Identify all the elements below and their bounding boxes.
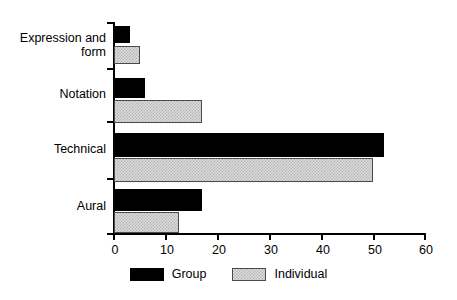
bar-group-aural — [114, 189, 425, 233]
value-tick-label-10: 10 — [147, 243, 187, 257]
legend-swatch-group-icon — [130, 268, 164, 281]
value-tick — [217, 233, 219, 240]
bar-chart: Expression and form Notation Technical A… — [0, 0, 457, 300]
value-tick-label-60: 60 — [406, 243, 446, 257]
bar-notation-individual — [114, 100, 202, 123]
category-tick — [107, 22, 114, 24]
value-tick — [113, 233, 115, 240]
value-tick-label-50: 50 — [355, 243, 395, 257]
legend-label-group: Group — [172, 267, 207, 281]
category-label-technical: Technical — [54, 142, 106, 156]
category-label-notation: Notation — [59, 87, 106, 101]
bar-row-group — [114, 78, 425, 98]
value-tick — [424, 233, 426, 240]
bar-row-group — [114, 133, 425, 157]
legend-swatch-individual-icon — [232, 268, 266, 281]
bar-expression-and-form-group — [114, 26, 130, 43]
category-label-aural: Aural — [77, 199, 106, 213]
value-tick-label-40: 40 — [303, 243, 343, 257]
bar-group-technical — [114, 133, 425, 182]
bar-row-group — [114, 189, 425, 211]
value-tick-label-20: 20 — [199, 243, 239, 257]
plot-area — [114, 22, 425, 233]
bar-expression-and-form-individual — [114, 46, 140, 64]
bar-technical-individual — [114, 158, 373, 182]
value-tick — [165, 233, 167, 240]
value-tick-label-30: 30 — [251, 243, 291, 257]
value-tick — [321, 233, 323, 240]
bar-row-individual — [114, 212, 425, 233]
category-tick — [107, 178, 114, 180]
bar-group-notation — [114, 78, 425, 123]
bar-row-individual — [114, 100, 425, 123]
category-label-expression-and-form: Expression and form — [20, 31, 106, 59]
value-tick-label-0: 0 — [95, 243, 135, 257]
bar-row-individual — [114, 158, 425, 182]
bar-row-group — [114, 26, 425, 43]
chart-legend: Group Individual — [0, 267, 457, 281]
legend-label-individual: Individual — [274, 267, 327, 281]
bar-aural-individual — [114, 212, 179, 233]
legend-entry-group: Group — [130, 267, 207, 281]
bar-notation-group — [114, 78, 145, 98]
bar-technical-group — [114, 133, 384, 157]
category-tick — [107, 68, 114, 70]
value-tick — [269, 233, 271, 240]
legend-entry-individual: Individual — [232, 267, 327, 281]
value-tick — [373, 233, 375, 240]
bar-aural-group — [114, 189, 202, 211]
bar-row-individual — [114, 46, 425, 64]
bar-group-expression-and-form — [114, 26, 425, 64]
category-tick — [107, 121, 114, 123]
